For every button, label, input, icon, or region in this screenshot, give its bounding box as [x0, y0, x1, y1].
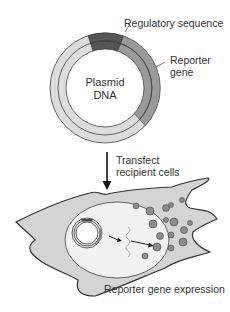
expression-caption: Reporter gene expression	[104, 283, 225, 295]
reporter-gene-diagram: Plasmid DNA Regulatory sequence Reporter…	[0, 0, 230, 312]
plasmid: Plasmid DNA	[50, 33, 160, 143]
plasmid-label-line2: DNA	[93, 89, 117, 101]
reporter-gene-label-line2: gene	[170, 66, 194, 78]
reporter-gene-label-line1: Reporter	[170, 54, 211, 66]
regulatory-sequence-label: Regulatory sequence	[124, 17, 223, 29]
nuclear-plasmid	[72, 218, 102, 248]
transfect-label-line1: Transfect	[116, 154, 159, 166]
transfect-arrow-icon	[103, 152, 112, 190]
plasmid-label-line1: Plasmid	[85, 76, 124, 88]
recipient-cell	[16, 178, 217, 296]
transfect-label-line2: recipient cells	[116, 166, 180, 178]
